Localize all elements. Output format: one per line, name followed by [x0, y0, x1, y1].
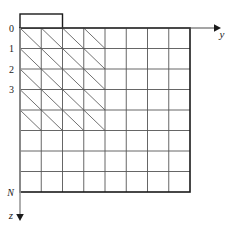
row-index-label-2: 2 — [9, 64, 14, 75]
y-axis-label: y — [219, 28, 225, 40]
figure-background — [0, 0, 237, 228]
row-index-label-0: 0 — [9, 23, 14, 34]
figure-root: y z 0123N — [0, 0, 237, 228]
row-index-label-3: 3 — [9, 84, 14, 95]
z-axis-label: z — [8, 209, 14, 221]
row-index-label-n: N — [6, 187, 15, 198]
row-index-label-1: 1 — [9, 43, 14, 54]
top-tab-rectangle — [20, 14, 63, 28]
grid-diagram: y z 0123N — [0, 0, 237, 228]
